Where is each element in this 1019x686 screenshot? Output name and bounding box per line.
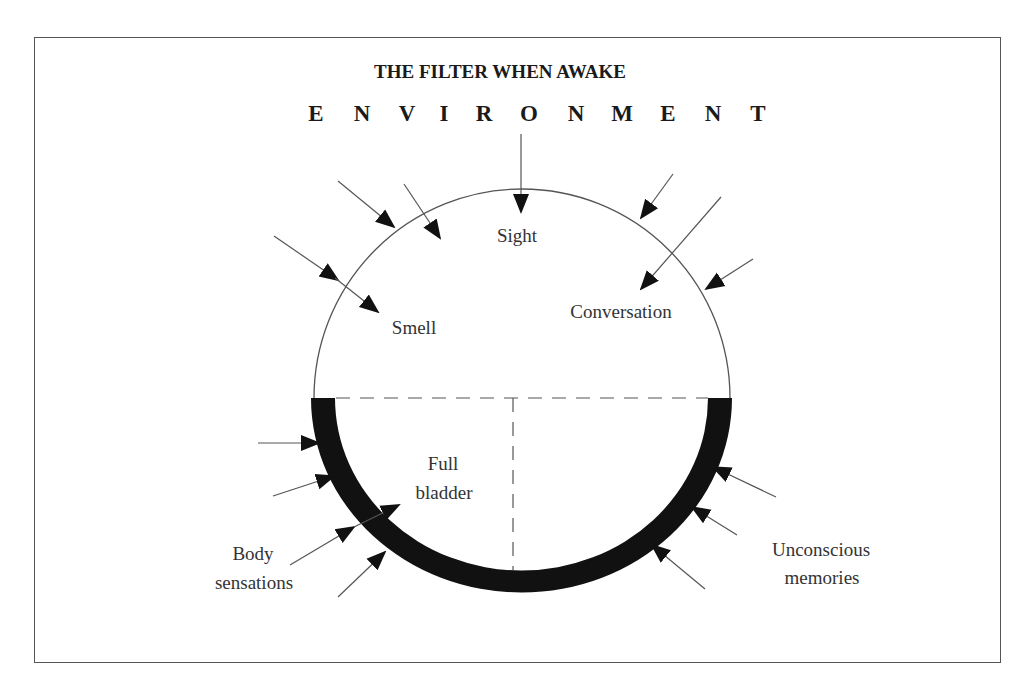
label-conversation: Conversation <box>570 301 672 322</box>
lower-filter-band <box>311 398 732 592</box>
svg-text:N: N <box>354 101 371 126</box>
label-sight: Sight <box>497 225 538 246</box>
environment-label: E N V I R O N M E N T <box>308 101 765 126</box>
filter-diagram: THE FILTER WHEN AWAKE E N V I R O N M E … <box>0 0 1019 686</box>
arrow-icon <box>692 507 737 535</box>
arrow-icon <box>338 181 394 227</box>
arrow-icon <box>706 259 753 289</box>
upper-filter-outline <box>314 189 730 398</box>
environment-arrows <box>274 134 753 312</box>
arrow-icon <box>290 527 354 565</box>
svg-text:N: N <box>568 101 585 126</box>
svg-text:E: E <box>308 101 323 126</box>
label-full-bladder-1: Full <box>428 453 459 474</box>
diagram-title: THE FILTER WHEN AWAKE <box>374 61 626 82</box>
svg-text:V: V <box>399 101 416 126</box>
arrow-icon <box>274 236 338 280</box>
svg-text:T: T <box>750 101 765 126</box>
arrow-icon <box>652 545 705 589</box>
arrow-icon <box>713 467 776 497</box>
svg-text:M: M <box>611 101 633 126</box>
arrow-icon <box>273 476 334 496</box>
svg-text:O: O <box>520 101 538 126</box>
svg-text:N: N <box>705 101 722 126</box>
arrow-icon <box>404 184 440 238</box>
arrow-icon <box>641 174 673 218</box>
svg-text:E: E <box>660 101 675 126</box>
arrow-icon <box>338 552 385 597</box>
label-body-sensations-1: Body <box>232 543 274 564</box>
label-full-bladder-2: bladder <box>416 482 474 503</box>
arrow-icon <box>641 197 721 289</box>
label-unconscious-memories-2: memories <box>785 567 860 588</box>
label-body-sensations-2: sensations <box>215 572 293 593</box>
label-unconscious-memories-1: Unconscious <box>772 539 870 560</box>
svg-text:R: R <box>476 101 493 126</box>
label-smell: Smell <box>392 317 436 338</box>
svg-text:I: I <box>440 101 449 126</box>
